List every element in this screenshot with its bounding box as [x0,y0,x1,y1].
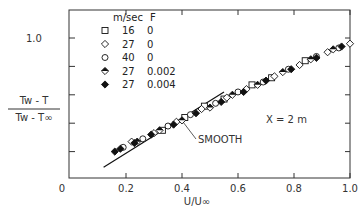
x-tick-label: 0.4 [174,183,190,194]
legend-header-f: F [150,12,156,23]
x-tick-label: 0.8 [286,183,302,194]
half-filled-diamond-marker [101,67,108,74]
open-circle-marker [102,55,108,61]
legend-speed: 27 [122,39,135,50]
smooth-label: SMOOTH [198,134,242,145]
open-diamond-marker [101,40,108,47]
legend-speed: 40 [122,52,135,63]
chart-canvas: 00.20.40.60.81.0 1.0 U/U∞ Tw - T Tw - T∞… [0,0,364,210]
legend-speed: 27 [122,79,135,90]
position-annotation: X = 2 m [266,114,307,125]
legend-f: 0 [147,52,153,63]
legend-header-speed: m/sec [113,12,143,23]
x-tick-label: 0 [59,183,65,194]
y-axis-title-denominator: Tw - T∞ [14,112,52,123]
x-tick-labels: 00.20.40.60.81.0 [59,183,358,194]
x-tick-label: 0.6 [230,183,246,194]
legend-speed: 16 [122,25,135,36]
y-axis-title-numerator: Tw - T [19,95,50,106]
x-axis-title: U/U∞ [184,196,210,207]
x-tick-label: 0.2 [118,183,134,194]
legend-f: 0 [147,25,153,36]
x-tick-label: 1.0 [342,183,358,194]
legend: m/sec F 160270400270.002270.004 [101,12,175,90]
legend-f: 0.002 [147,66,176,77]
legend-speed: 27 [122,66,135,77]
legend-f: 0.004 [147,79,176,90]
legend-f: 0 [147,39,153,50]
open-square-marker [102,28,108,34]
y-tick-label-1: 1.0 [26,33,42,44]
y-axis-title: Tw - T Tw - T∞ [8,95,60,123]
open-diamond-marker [346,40,353,47]
filled-diamond-marker [101,81,108,88]
open-circle-marker [140,136,146,142]
plot-frame [69,10,350,178]
